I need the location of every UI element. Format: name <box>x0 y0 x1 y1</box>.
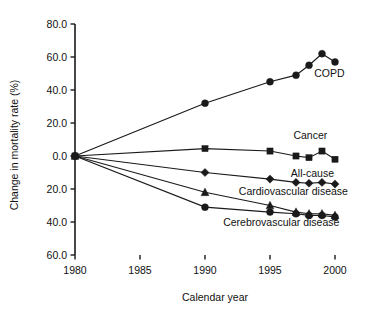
data-point-square <box>306 155 312 161</box>
series-label-copd: COPD <box>314 67 345 79</box>
data-point-square <box>332 156 338 162</box>
x-axis-tick-label: 1980 <box>63 264 87 276</box>
x-axis-title: Calendar year <box>182 291 248 303</box>
data-point-square <box>202 145 208 151</box>
data-point-circle <box>267 209 274 216</box>
data-point-circle <box>72 153 79 160</box>
data-point-circle <box>319 50 326 57</box>
y-axis-tick-label: 40.0 <box>47 84 68 96</box>
data-point-square <box>293 153 299 159</box>
series-label-cancer: Cancer <box>293 129 327 141</box>
y-axis-tick-label: 40.0 <box>47 216 68 228</box>
chart-figure: 80.060.040.020.00.020.040.060.0 19801985… <box>0 0 370 314</box>
data-point-circle <box>332 58 339 65</box>
data-point-square <box>319 148 325 154</box>
x-axis-tick-label: 1995 <box>258 264 282 276</box>
series-label-cerebrovascular-disease: Cerebrovascular disease <box>223 216 339 228</box>
series-label-cardiovascular-disease: Cardiovascular disease <box>239 185 348 197</box>
mortality-rate-line-chart: 80.060.040.020.00.020.040.060.0 19801985… <box>0 0 370 314</box>
x-axis-tick-label: 1985 <box>128 264 152 276</box>
y-axis-tick-label: 80.0 <box>47 18 68 30</box>
data-point-circle <box>306 62 313 69</box>
y-axis-tick-label: 20.0 <box>47 117 68 129</box>
x-axis-tick-label: 2000 <box>323 264 347 276</box>
data-point-square <box>267 148 273 154</box>
y-axis-tick-label: 60.0 <box>47 51 68 63</box>
data-point-circle <box>202 204 209 211</box>
y-axis-tick-label: 20.0 <box>47 183 68 195</box>
y-axis-tick-label: 60.0 <box>47 249 68 261</box>
data-point-circle <box>293 72 300 79</box>
data-point-circle <box>267 78 274 85</box>
y-axis-title: Change in mortality rate (%) <box>8 80 20 211</box>
y-axis-tick-label: 0.0 <box>52 150 67 162</box>
series-label-all-cause: All-cause <box>291 167 334 179</box>
x-axis-tick-label: 1990 <box>193 264 217 276</box>
data-point-circle <box>202 100 209 107</box>
